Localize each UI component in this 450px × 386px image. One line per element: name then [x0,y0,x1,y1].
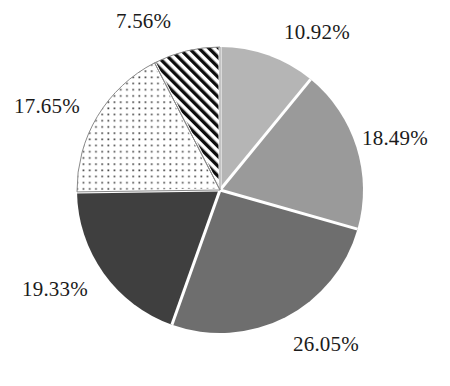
slice-label-1: 10.92% [284,22,350,43]
slice-label-5: 17.65% [14,96,80,117]
slice-label-4: 19.33% [22,279,88,300]
pie-chart-canvas [0,0,450,386]
slice-label-3: 26.05% [293,334,359,355]
slice-label-2: 18.49% [362,128,428,149]
pie-chart-figure: 10.92% 18.49% 26.05% 19.33% 17.65% 7.56% [0,0,450,386]
slice-label-6: 7.56% [116,11,171,32]
